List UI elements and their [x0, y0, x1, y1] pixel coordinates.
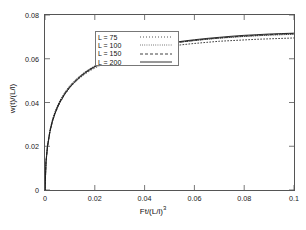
legend-label: L = 150 — [98, 50, 139, 57]
x-tick-label: 0.06 — [174, 194, 214, 203]
x-tick-label: 0.08 — [224, 194, 264, 203]
x-tick-label: 0.02 — [75, 194, 115, 203]
y-tick-label: 0.08 — [3, 11, 39, 20]
chart-figure: 0.08 0.06 0.04 0.02 0 0 0.02 0.04 0.06 0… — [0, 0, 306, 230]
y-tick-label: 0.02 — [3, 142, 39, 151]
legend-item: L = 100 — [98, 41, 178, 49]
legend-line-sample — [139, 58, 173, 66]
legend: L = 75 L = 100 L = 150 L = 200 — [95, 31, 179, 66]
legend-item: L = 150 — [98, 50, 178, 58]
x-tick-label: 0.04 — [125, 194, 165, 203]
legend-item: L = 200 — [98, 58, 178, 66]
plot-area: L = 75 L = 100 L = 150 L = 200 — [44, 14, 295, 191]
legend-label: L = 200 — [98, 59, 139, 66]
legend-label: L = 75 — [98, 34, 139, 41]
x-tick-label: 0 — [25, 194, 65, 203]
legend-line-sample — [139, 33, 173, 41]
legend-line-sample — [139, 50, 173, 58]
legend-item: L = 75 — [98, 33, 178, 41]
x-axis-title-exponent: 3 — [163, 205, 166, 211]
x-axis-title: Ft/(L/l)3 — [0, 205, 306, 216]
legend-line-sample — [139, 41, 173, 49]
x-axis-title-base: Ft/(L/l) — [140, 207, 163, 216]
legend-label: L = 100 — [98, 42, 139, 49]
y-axis-title: w(t)/(L/l) — [8, 59, 17, 139]
x-tick-label: 0.1 — [274, 194, 306, 203]
